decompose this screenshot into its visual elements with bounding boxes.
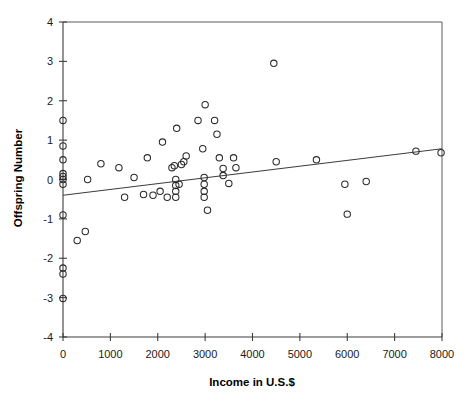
data-point [233, 164, 239, 170]
data-point [273, 159, 279, 165]
x-tick-label: 4000 [240, 348, 264, 360]
data-point [150, 192, 156, 198]
data-points-group [60, 60, 444, 301]
y-axis-title: Offspring Number [12, 128, 24, 227]
trend-line-group [63, 149, 442, 195]
frame-top-right [63, 22, 442, 337]
data-point [342, 181, 348, 187]
data-point [144, 155, 150, 161]
data-point [140, 191, 146, 197]
data-point [157, 188, 163, 194]
x-tick-label: 5000 [288, 348, 312, 360]
data-point [183, 153, 189, 159]
data-point [216, 155, 222, 161]
data-point [230, 155, 236, 161]
x-axis-title: Income in U.S.$ [209, 376, 295, 388]
data-point [121, 194, 127, 200]
y-tick-label: -4 [43, 331, 53, 343]
data-point [211, 117, 217, 123]
data-point [204, 207, 210, 213]
data-point [164, 194, 170, 200]
data-point [202, 101, 208, 107]
data-point [201, 181, 207, 187]
x-tick-label: 0 [60, 348, 66, 360]
data-point [313, 157, 319, 163]
data-point [226, 180, 232, 186]
regression-trend-line [63, 149, 442, 195]
x-tick-label: 8000 [430, 348, 454, 360]
data-point [214, 131, 220, 137]
y-tick-label: 3 [47, 55, 53, 67]
scatter-plot-svg: -4-3-2-101234 01000200030004000500060007… [0, 0, 470, 416]
data-point [74, 237, 80, 243]
data-point [363, 178, 369, 184]
data-point [159, 139, 165, 145]
data-point [413, 148, 419, 154]
chart-figure: -4-3-2-101234 01000200030004000500060007… [0, 0, 470, 416]
x-tick-label: 6000 [335, 348, 359, 360]
x-tick-label: 3000 [193, 348, 217, 360]
x-tick-label: 2000 [146, 348, 170, 360]
data-point [98, 161, 104, 167]
data-point [131, 174, 137, 180]
y-axis-tick-labels: -4-3-2-101234 [43, 16, 53, 343]
x-tick-label: 7000 [382, 348, 406, 360]
x-axis-tick-labels: 010002000300040005000600070008000 [60, 348, 454, 360]
data-point [200, 146, 206, 152]
y-tick-label: 0 [47, 174, 53, 186]
data-point [116, 164, 122, 170]
plot-frame [63, 22, 442, 337]
data-point [84, 176, 90, 182]
data-point [195, 117, 201, 123]
y-tick-label: -3 [43, 292, 53, 304]
data-point [82, 228, 88, 234]
data-point [344, 211, 350, 217]
y-tick-label: 1 [47, 134, 53, 146]
y-tick-label: -1 [43, 213, 53, 225]
x-tick-label: 1000 [98, 348, 122, 360]
data-point [438, 150, 444, 156]
data-point [271, 60, 277, 66]
data-point [220, 165, 226, 171]
y-tick-label: 2 [47, 95, 53, 107]
y-tick-label: 4 [47, 16, 53, 28]
data-point [174, 125, 180, 131]
y-tick-label: -2 [43, 252, 53, 264]
